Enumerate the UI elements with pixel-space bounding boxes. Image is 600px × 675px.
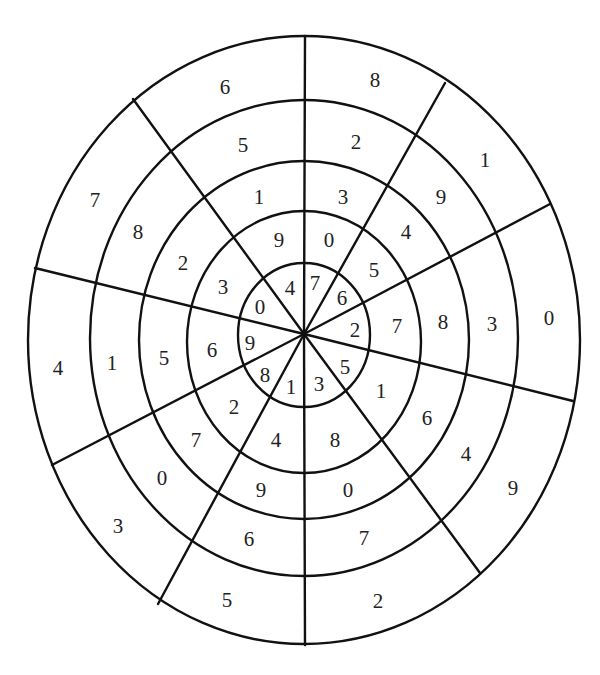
cell-number: 5: [340, 355, 351, 379]
cell-number: 1: [254, 185, 265, 209]
sector-7: 30728: [113, 363, 271, 538]
cell-number: 8: [330, 428, 341, 452]
spoke-1: [304, 36, 305, 334]
cell-number: 0: [324, 228, 335, 252]
spoke-5: [304, 334, 480, 573]
cell-number: 9: [508, 476, 519, 500]
cell-number: 5: [222, 588, 233, 612]
cell-number: 2: [373, 589, 384, 613]
cell-number: 2: [351, 130, 362, 154]
cell-number: 0: [157, 466, 168, 490]
cell-number: 6: [244, 527, 255, 551]
radial-spokes: [35, 36, 573, 645]
sector-5: 27083: [314, 372, 384, 613]
cell-number: 9: [436, 185, 447, 209]
cell-number: 7: [392, 314, 403, 338]
spoke-6: [304, 334, 305, 645]
sector-8: 41569: [53, 331, 256, 380]
cell-number: 7: [359, 526, 370, 550]
cell-number: 6: [207, 338, 218, 362]
cell-number: 2: [229, 395, 240, 419]
sector-3: 03872: [350, 306, 555, 342]
cell-number: 2: [178, 251, 189, 275]
cell-number: 7: [90, 188, 101, 212]
cell-number: 3: [113, 514, 124, 538]
cell-number: 9: [245, 331, 256, 355]
cell-number: 8: [133, 220, 144, 244]
cell-number: 5: [369, 258, 380, 282]
cell-number: 1: [376, 379, 387, 403]
cell-number: 4: [401, 220, 412, 244]
cell-number: 1: [286, 375, 297, 399]
cell-number: 0: [343, 478, 354, 502]
cell-number: 4: [271, 428, 282, 452]
cell-number: 3: [487, 312, 498, 336]
cell-number: 9: [256, 478, 267, 502]
cell-number: 6: [422, 406, 433, 430]
cell-number: 1: [107, 351, 118, 375]
cell-number: 8: [438, 310, 449, 334]
cell-number: 8: [370, 68, 381, 92]
sector-9: 78230: [90, 188, 266, 319]
cell-number: 3: [314, 372, 325, 396]
cell-number: 9: [274, 228, 285, 252]
cell-number: 1: [480, 148, 491, 172]
cell-number: 4: [461, 442, 472, 466]
sector-4: 94615: [340, 355, 519, 500]
cell-number: 5: [238, 133, 249, 157]
number-wheel-diagram: 8230719456038729461527083569413072841569…: [0, 0, 600, 675]
cell-number: 3: [218, 275, 229, 299]
cell-number: 2: [350, 318, 361, 342]
cell-number: 7: [191, 428, 202, 452]
cell-number: 7: [310, 271, 321, 295]
cell-number: 3: [338, 185, 349, 209]
cell-number: 8: [260, 363, 271, 387]
cell-number: 5: [159, 346, 170, 370]
cell-number: 0: [544, 306, 555, 330]
cell-number: 6: [220, 75, 231, 99]
cell-number: 4: [53, 356, 64, 380]
cell-number: 0: [255, 295, 266, 319]
cell-number: 6: [337, 286, 348, 310]
spoke-7: [158, 334, 304, 604]
cell-number: 4: [285, 276, 296, 300]
